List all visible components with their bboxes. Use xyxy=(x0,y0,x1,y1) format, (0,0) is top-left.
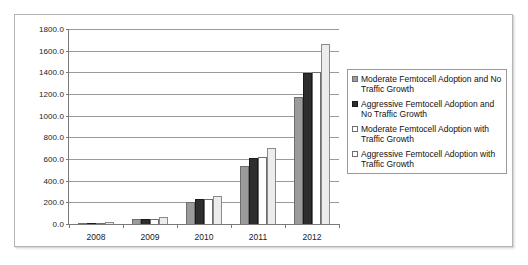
y-tick-label: 1000.0 xyxy=(39,111,64,120)
y-tick-label: 400.0 xyxy=(43,176,64,185)
bar[interactable] xyxy=(312,72,321,224)
bar[interactable] xyxy=(267,148,276,224)
bar[interactable] xyxy=(105,222,114,224)
bar[interactable] xyxy=(294,97,303,224)
legend-item[interactable]: Aggressive Femtocell Adoption and No Tra… xyxy=(352,99,503,119)
bar[interactable] xyxy=(150,219,159,224)
x-tick-mark xyxy=(69,224,70,228)
bar[interactable] xyxy=(303,73,312,224)
bar[interactable] xyxy=(87,223,96,225)
legend-item[interactable]: Aggressive Femtocell Adoption with Traff… xyxy=(352,149,503,169)
legend-item-label: Moderate Femtocell Adoption and No Traff… xyxy=(361,74,503,94)
y-tick-label: 1400.0 xyxy=(39,68,64,77)
legend-swatch-icon xyxy=(352,126,358,132)
bar[interactable] xyxy=(258,157,267,224)
legend-item[interactable]: Moderate Femtocell Adoption with Traffic… xyxy=(352,124,503,144)
bar[interactable] xyxy=(195,199,204,224)
y-tick-label: 800.0 xyxy=(43,133,64,142)
bar-group xyxy=(285,29,339,224)
chart-frame: 1800.01600.01400.01200.01000.0800.0600.0… xyxy=(14,14,513,247)
x-tick-mark xyxy=(231,224,232,228)
x-tick-label: 2010 xyxy=(195,232,214,242)
bar-group xyxy=(123,29,177,224)
x-tick-label: 2011 xyxy=(249,232,267,242)
bar[interactable] xyxy=(204,199,213,224)
y-tick-label: 600.0 xyxy=(43,155,64,164)
plot-area: 1800.01600.01400.01200.01000.0800.0600.0… xyxy=(68,29,339,225)
legend-item-label: Moderate Femtocell Adoption with Traffic… xyxy=(361,124,503,144)
chart-legend: Moderate Femtocell Adoption and No Traff… xyxy=(347,69,507,174)
bar-group xyxy=(231,29,285,224)
x-tick-label: 2008 xyxy=(87,232,106,242)
bar[interactable] xyxy=(321,44,330,224)
y-tick-label: 1600.0 xyxy=(39,46,64,55)
bar[interactable] xyxy=(249,158,258,224)
legend-item-label: Aggressive Femtocell Adoption and No Tra… xyxy=(361,99,503,119)
bar[interactable] xyxy=(240,166,249,225)
bar[interactable] xyxy=(186,202,195,224)
bar[interactable] xyxy=(141,219,150,224)
legend-item[interactable]: Moderate Femtocell Adoption and No Traff… xyxy=(352,74,503,94)
y-tick-label: 0.0 xyxy=(53,220,64,229)
y-tick-label: 1200.0 xyxy=(39,90,64,99)
x-tick-mark xyxy=(177,224,178,228)
legend-swatch-icon xyxy=(352,76,358,82)
bar-series-layer xyxy=(69,29,339,224)
bar[interactable] xyxy=(213,196,222,224)
legend-item-label: Aggressive Femtocell Adoption with Traff… xyxy=(361,149,503,169)
bar-group xyxy=(177,29,231,224)
legend-swatch-icon xyxy=(352,151,358,157)
bar[interactable] xyxy=(96,223,105,225)
x-tick-mark xyxy=(339,224,340,228)
x-tick-mark xyxy=(285,224,286,228)
y-tick-label: 200.0 xyxy=(43,198,64,207)
bar[interactable] xyxy=(159,217,168,224)
y-tick-label: 1800.0 xyxy=(39,25,64,34)
legend-swatch-icon xyxy=(352,101,358,107)
x-tick-label: 2012 xyxy=(303,232,322,242)
bar[interactable] xyxy=(78,223,87,225)
x-tick-mark xyxy=(123,224,124,228)
bar-group xyxy=(69,29,123,224)
x-tick-label: 2009 xyxy=(141,232,160,242)
bar[interactable] xyxy=(132,219,141,224)
